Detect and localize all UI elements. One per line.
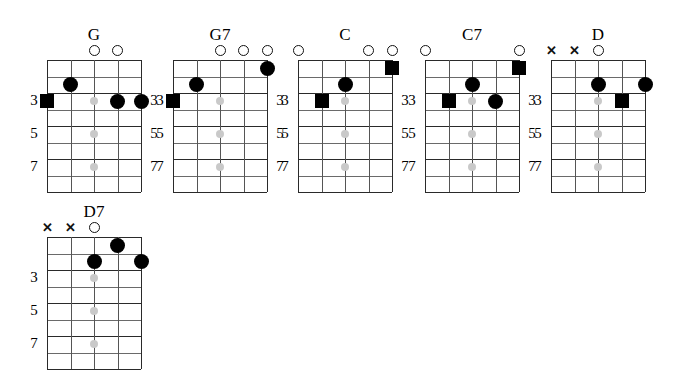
chord-diagram-g7: G7357357	[151, 26, 289, 194]
chord-name-label: C7	[403, 26, 541, 43]
fret-number-left-7: 7	[404, 159, 420, 174]
chord-name-label: D	[529, 26, 667, 43]
string-line-1	[173, 60, 174, 192]
fretboard-grid	[425, 60, 519, 192]
fret-inlay-5	[216, 130, 224, 138]
fret-number-left-5: 5	[277, 126, 293, 141]
open-string-marker-1	[293, 45, 304, 56]
string-state-row: ✕✕	[25, 222, 163, 235]
fret-inlay-7	[341, 163, 349, 171]
string-line-1	[47, 237, 48, 369]
fret-inlay-5	[90, 307, 98, 315]
chord-name-label: D7	[25, 203, 163, 220]
string-line-5	[267, 60, 268, 192]
finger-marker-circle-s4-f1	[110, 238, 125, 253]
fret-inlay-3	[594, 97, 602, 105]
fret-inlay-7	[468, 163, 476, 171]
finger-marker-circle-s3-f2	[87, 254, 102, 269]
fret-line-8	[173, 192, 267, 193]
fret-number-left-7: 7	[277, 159, 293, 174]
string-line-3	[94, 60, 95, 192]
finger-marker-circle-s5-f2	[134, 254, 149, 269]
string-line-4	[369, 60, 370, 192]
string-line-2	[575, 60, 576, 192]
fret-number-left-3: 3	[404, 93, 420, 108]
open-string-marker-4	[238, 45, 249, 56]
open-string-marker-1	[420, 45, 431, 56]
finger-marker-square-s5-f1	[512, 61, 526, 75]
finger-marker-circle-s5-f1	[260, 61, 275, 76]
fret-number-left-3: 3	[26, 270, 42, 285]
fret-number-left-7: 7	[152, 159, 168, 174]
fret-number-left-7: 7	[26, 336, 42, 351]
fret-number-left-3: 3	[26, 93, 42, 108]
fret-inlay-5	[594, 130, 602, 138]
chord-diagram-d: D✕✕357	[529, 26, 667, 194]
string-state-row: ✕✕	[529, 45, 667, 58]
fret-number-left-7: 7	[26, 159, 42, 174]
fret-number-left-7: 7	[530, 159, 546, 174]
fret-number-left-3: 3	[530, 93, 546, 108]
finger-marker-circle-s2-f2	[189, 77, 204, 92]
string-line-5	[392, 60, 393, 192]
fret-number-left-5: 5	[152, 126, 168, 141]
chord-diagram-d7: D7✕✕357	[25, 203, 163, 371]
fretboard-grid	[47, 60, 141, 192]
string-line-4	[118, 60, 119, 192]
muted-string-marker-2: ✕	[569, 45, 580, 56]
finger-marker-circle-s4-f3	[488, 94, 503, 109]
chord-diagram-c: C357357	[276, 26, 414, 194]
muted-string-marker-1: ✕	[546, 45, 557, 56]
string-line-1	[298, 60, 299, 192]
open-string-marker-4	[112, 45, 123, 56]
finger-marker-circle-s3-f2	[591, 77, 606, 92]
fret-number-left-5: 5	[530, 126, 546, 141]
open-string-marker-3	[215, 45, 226, 56]
string-line-5	[141, 60, 142, 192]
string-line-4	[496, 60, 497, 192]
open-string-marker-5	[262, 45, 273, 56]
string-line-3	[220, 60, 221, 192]
open-string-marker-5	[387, 45, 398, 56]
fret-inlay-7	[90, 340, 98, 348]
fret-inlay-3	[90, 97, 98, 105]
open-string-marker-3	[593, 45, 604, 56]
finger-marker-circle-s3-f2	[465, 77, 480, 92]
string-line-1	[551, 60, 552, 192]
fret-inlay-5	[341, 130, 349, 138]
fret-inlay-3	[468, 97, 476, 105]
fret-number-left-3: 3	[277, 93, 293, 108]
muted-string-marker-2: ✕	[65, 222, 76, 233]
fret-inlay-5	[468, 130, 476, 138]
fret-number-left-5: 5	[26, 126, 42, 141]
finger-marker-circle-s5-f2	[638, 77, 653, 92]
string-line-4	[622, 60, 623, 192]
open-string-marker-4	[363, 45, 374, 56]
finger-marker-square-s2-f3	[315, 94, 329, 108]
string-line-1	[425, 60, 426, 192]
fret-inlay-3	[90, 274, 98, 282]
finger-marker-square-s5-f1	[385, 61, 399, 75]
string-line-2	[71, 237, 72, 369]
chord-name-label: G	[25, 26, 163, 43]
fret-line-8	[551, 192, 645, 193]
fret-number-left-5: 5	[26, 303, 42, 318]
fret-line-8	[47, 369, 141, 370]
finger-marker-square-s2-f3	[442, 94, 456, 108]
fret-inlay-7	[216, 163, 224, 171]
finger-marker-square-s1-f3	[166, 94, 180, 108]
string-line-5	[519, 60, 520, 192]
chord-name-label: G7	[151, 26, 289, 43]
fretboard-grid	[47, 237, 141, 369]
string-line-4	[118, 237, 119, 369]
fret-number-left-3: 3	[152, 93, 168, 108]
fretboard-grid	[298, 60, 392, 192]
chord-name-label: C	[276, 26, 414, 43]
finger-marker-square-s1-f3	[40, 94, 54, 108]
fret-inlay-7	[90, 163, 98, 171]
finger-marker-circle-s4-f3	[110, 94, 125, 109]
muted-string-marker-1: ✕	[42, 222, 53, 233]
finger-marker-circle-s3-f2	[338, 77, 353, 92]
fret-inlay-5	[90, 130, 98, 138]
string-line-2	[449, 60, 450, 192]
